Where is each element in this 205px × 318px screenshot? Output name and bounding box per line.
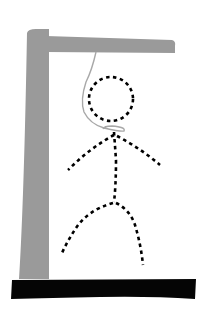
gallows-post: [19, 29, 49, 279]
gallows-beam: [46, 36, 175, 53]
figure-left-arm: [68, 135, 114, 170]
figure-right-arm: [117, 136, 160, 165]
figure-head: [89, 77, 133, 121]
hangman-drawing: [0, 0, 205, 318]
figure-body: [114, 132, 116, 202]
hangman-canvas: [0, 0, 205, 318]
figure-left-leg: [62, 203, 113, 253]
gallows-base: [11, 279, 196, 299]
figure-right-leg: [116, 203, 143, 265]
